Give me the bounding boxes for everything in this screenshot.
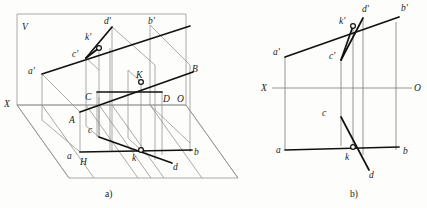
caption-a: a) — [105, 189, 112, 200]
label-d-prime: d' — [104, 16, 112, 26]
label-c: c — [88, 125, 93, 135]
panel-a-drawing: V H X O a' b' c' d' k' A B C D K a b c d… — [0, 0, 427, 208]
label-b: b — [194, 147, 199, 157]
label-v-plane: V — [22, 22, 29, 32]
label-b-b: b — [403, 146, 408, 156]
panel-b-lines — [285, 17, 399, 170]
label-d-b: d — [369, 170, 374, 180]
label-b-prime: b' — [148, 16, 156, 26]
panel-b-projectors — [285, 18, 396, 155]
point-marker-k-b — [351, 145, 356, 150]
construction-lines — [17, 25, 238, 178]
label-k-b: k — [345, 152, 350, 162]
label-C: C — [85, 92, 92, 102]
label-A: A — [68, 115, 75, 125]
v-projection-lines — [42, 26, 190, 74]
label-K: K — [135, 70, 143, 80]
label-b-prime-b: b' — [401, 3, 409, 13]
point-marker-k-prime-b — [351, 24, 356, 29]
label-h-plane: H — [79, 157, 88, 167]
label-x-axis-a: X — [3, 99, 11, 109]
label-origin-b: O — [414, 83, 421, 93]
line-ab-prime — [42, 26, 190, 74]
label-k: k — [132, 153, 137, 163]
point-marker-k — [139, 148, 144, 153]
line-cd-prime-b-ext — [341, 26, 353, 60]
label-c-prime: c' — [72, 49, 79, 59]
label-a-prime-b: a' — [273, 47, 281, 57]
label-c-prime-b: c' — [329, 51, 336, 61]
line-ab-b — [285, 147, 399, 150]
caption-b: b) — [350, 189, 358, 200]
figure-container: V H X O a' b' c' d' k' A B C D K a b c d… — [0, 0, 427, 208]
label-x-axis-b: X — [260, 83, 268, 93]
label-d-prime-b: d' — [362, 4, 370, 14]
point-marker-k-prime — [97, 46, 102, 51]
label-a-prime: a' — [28, 66, 36, 76]
label-B: B — [192, 64, 198, 74]
label-D: D — [162, 94, 170, 104]
label-c-b: c — [322, 108, 327, 118]
label-a-b: a — [276, 145, 281, 155]
label-k-prime-b: k' — [339, 16, 346, 26]
line-cd-b — [341, 117, 369, 170]
label-k-prime: k' — [85, 32, 92, 42]
label-d: d — [173, 162, 178, 172]
point-marker-K — [139, 80, 144, 85]
label-origin-a: O — [177, 94, 184, 104]
label-a: a — [67, 151, 72, 161]
